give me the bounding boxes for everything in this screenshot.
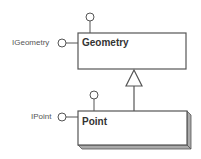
geometry-class-name: Geometry <box>82 38 129 48</box>
ipoint-label: IPoint <box>31 113 51 121</box>
point-top-interface-lollipop <box>90 91 98 111</box>
point-class-name: Point <box>82 117 107 127</box>
igeometry-interface-lollipop <box>58 39 78 47</box>
ipoint-interface-lollipop <box>58 113 78 121</box>
inheritance-arrow <box>126 70 142 111</box>
geometry-top-interface-lollipop <box>86 13 94 33</box>
igeometry-label: IGeometry <box>12 39 49 47</box>
uml-diagram: IGeometry Geometry IPoint Point <box>0 0 201 159</box>
